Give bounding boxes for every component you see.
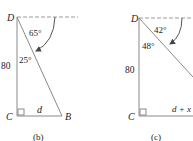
angle-d-label: 48° [142,41,155,51]
angle-depression-label: 42° [154,25,167,35]
vertex-d-label: D [6,12,15,23]
side-horizontal-label: d [37,104,43,115]
side-horizontal-label: d + x [172,104,191,114]
angle-depression-label: 65° [29,28,42,38]
diagram-canvas: D 65° 25° 80 C d B (b) D 42° 48° 80 C d … [0,0,193,141]
vertex-c-label: C [128,111,135,122]
figure-b: D 65° 25° 80 C d B (b) [1,12,78,141]
angle-d-label: 25° [19,55,32,65]
right-angle-marker [18,109,24,115]
vertex-d-label: D [130,13,139,24]
angle-arc-arrow [170,18,182,44]
side-vertical-label: 80 [125,65,135,75]
vertex-c-label: C [6,111,13,122]
vertex-b-label: B [65,111,71,122]
figure-c: D 42° 48° 80 C d + x (c) [125,13,193,141]
caption-b: (b) [33,132,44,141]
caption-c: (c) [151,132,161,141]
side-vertical-label: 80 [1,61,11,71]
right-angle-marker [140,109,146,115]
